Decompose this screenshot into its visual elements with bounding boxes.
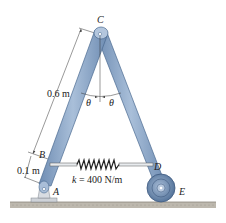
pin-a: [39, 181, 49, 193]
link-ac: [39, 30, 107, 186]
spring-coil: [77, 160, 119, 169]
label-a: A: [52, 186, 60, 197]
dimension-0-6m: 0.6 m: [47, 88, 70, 99]
base-plate: [31, 198, 57, 202]
ground: [10, 202, 216, 208]
dimension-0-1m: 0.1 m: [17, 165, 40, 176]
theta-right: θ: [109, 97, 114, 108]
theta-left: θ: [86, 97, 91, 108]
label-d: D: [153, 161, 162, 172]
dim-arrow-b: [33, 151, 35, 155]
label-c: C: [97, 14, 104, 25]
label-e: E: [178, 186, 185, 197]
spring-rod-right: [119, 163, 153, 166]
theta-arc: [81, 93, 121, 97]
spring-rod-left: [50, 163, 77, 166]
mechanism-diagram: C B A D E 0.6 m 0.1 m θ θ k = 400 N/m: [0, 0, 226, 223]
spring-constant-label: k = 400 N/m: [72, 174, 123, 185]
pin-c-hole: [98, 32, 101, 35]
pin-a-hole: [42, 187, 45, 190]
spring-k-value: = 400 N/m: [76, 174, 122, 185]
label-b: B: [39, 149, 45, 160]
wheel-e-axle: [160, 187, 163, 190]
